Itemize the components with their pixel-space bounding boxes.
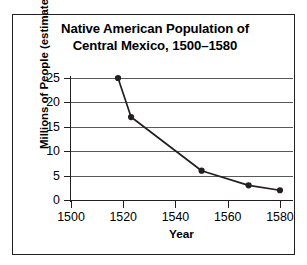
y-axis-tick: 25 [64,78,71,79]
chart-title-line-1: Native American Population of [35,21,275,38]
data-point [115,75,121,81]
x-axis-tick [71,200,72,208]
x-axis-tick-label: 1540 [162,210,190,224]
y-axis-tick-label: 20 [46,95,60,109]
population-line-series [71,78,293,200]
chart-figure: Native American Population of Central Me… [12,14,295,255]
x-axis-tick [123,200,124,208]
y-axis-tick: 15 [64,127,71,128]
x-axis-tick-label: 1520 [109,210,137,224]
y-axis-tick: 5 [64,176,71,177]
y-axis-tick-label: 15 [46,120,60,134]
y-axis-tick-label: 5 [53,169,60,183]
chart-title-line-2: Central Mexico, 1500–1580 [35,38,275,55]
x-axis-label: Year [70,227,293,241]
y-axis-tick-label: 0 [53,193,60,207]
x-axis-tick-label: 1580 [266,210,294,224]
series-markers [115,75,283,193]
data-point [246,182,252,188]
data-point [277,187,283,193]
y-axis-tick: 10 [64,151,71,152]
data-point [128,114,134,120]
y-axis-tick: 20 [64,102,71,103]
series-line-path [118,78,280,190]
x-axis-tick [228,200,229,208]
x-axis-tick [280,200,281,208]
y-axis-tick: 0 [64,200,71,201]
plot-area [71,78,293,200]
x-axis-tick [175,200,176,208]
x-axis-tick-label: 1560 [214,210,242,224]
x-axis-line [70,200,293,201]
x-axis-tick-label: 1500 [57,210,85,224]
y-axis-tick-label: 10 [46,144,60,158]
y-axis-tick-label: 25 [46,71,60,85]
chart-title: Native American Population of Central Me… [35,21,275,54]
data-point [198,168,204,174]
